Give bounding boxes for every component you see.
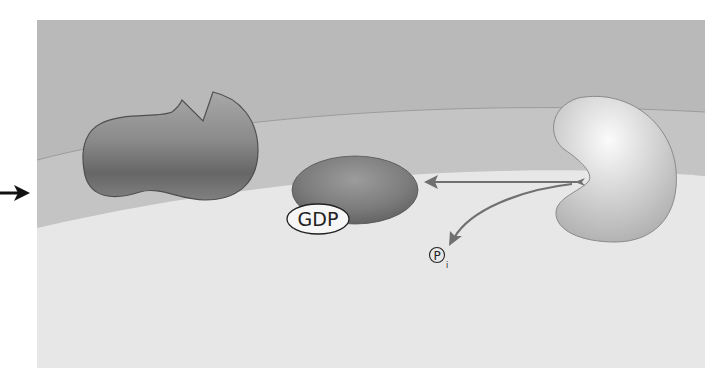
phosphate-symbol: P [433, 249, 440, 263]
phosphate-subscript: i [446, 261, 448, 270]
gdp-label: GDP [287, 204, 349, 234]
signaling-diagram: GDP P i [0, 0, 725, 387]
gdp-text: GDP [298, 208, 339, 230]
entry-arrow-icon [0, 185, 30, 201]
